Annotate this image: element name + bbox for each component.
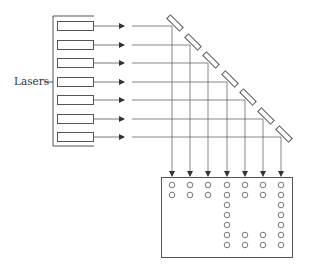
laser-4 [58,78,94,87]
mirror-2 [185,34,201,50]
mirror-7 [276,126,292,142]
laser-2 [58,41,94,50]
laser-1 [58,22,94,31]
laser-7 [58,133,94,142]
laser-array [58,22,94,142]
mirror-array [167,15,292,142]
laser-scanning-diagram: Lasers [0,0,309,272]
laser-6 [58,115,94,124]
mirror-3 [203,52,219,68]
mirror-5 [240,89,256,105]
mirror-1 [167,15,183,31]
lasers-label: Lasers [14,75,49,87]
display-screen [162,178,293,258]
laser-5 [58,96,94,105]
mirror-6 [258,108,274,124]
laser-3 [58,59,94,68]
mirror-4 [222,71,238,87]
